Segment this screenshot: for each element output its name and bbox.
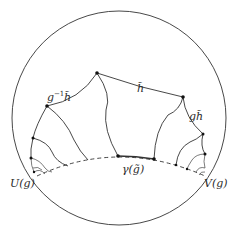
hyperbolic-disk-diagram: h̃ g −1 h̃ gh̃ γ(g̃) U(g) V(g)	[0, 0, 238, 231]
label-gamma: γ(g̃)	[122, 163, 144, 176]
node-right-inner	[175, 164, 178, 167]
label-U: U(g)	[10, 177, 35, 190]
node-top	[95, 71, 99, 75]
edge-right-mid	[202, 134, 205, 154]
label-h-tilde: h̃	[137, 82, 144, 95]
edge-left-mid	[31, 138, 33, 158]
edge-right-low-inner	[187, 154, 205, 169]
node-gamma-right	[152, 157, 156, 161]
label-V: V(g)	[204, 177, 228, 190]
edge-right-tiny-1	[196, 168, 205, 173]
edge-left-low	[31, 158, 34, 172]
axis-geodesic-dashed	[37, 157, 205, 176]
edge-center-right	[154, 97, 183, 159]
node-left-mid	[32, 137, 35, 140]
label-g-inverse-exponent: −1	[54, 90, 64, 98]
edge-right-low	[204, 154, 205, 168]
node-left-tiny	[33, 171, 35, 173]
edge-right-inner	[176, 134, 203, 165]
label-g-inverse-h: h̃	[64, 91, 71, 104]
label-g-h: gh̃	[189, 110, 203, 123]
edge-left-upper	[33, 106, 47, 138]
edge-center-left	[97, 73, 118, 156]
node-gamma-left	[116, 154, 120, 158]
node-right-upper	[181, 95, 185, 99]
edge-left-inner	[47, 106, 88, 160]
edge-left-tiny-2	[33, 167, 42, 170]
edge-left-mid-inner	[33, 138, 68, 166]
edge-left-tiny-1	[34, 170, 45, 174]
node-right-mid	[202, 133, 205, 136]
node-right-low	[204, 153, 207, 156]
node-left-low	[30, 157, 33, 160]
node-left-upper	[45, 104, 49, 108]
label-g-inverse-prefix: g	[47, 91, 54, 104]
node-right-inner-2	[186, 168, 188, 170]
